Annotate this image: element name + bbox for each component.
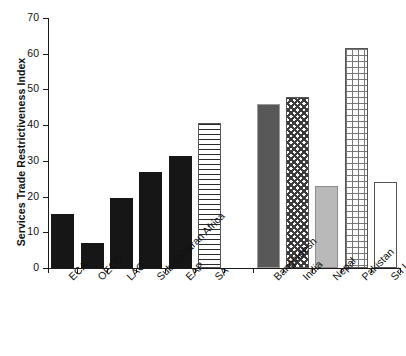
y-tick-label-0: 0	[13, 261, 39, 273]
x-tick-0	[48, 268, 49, 273]
y-tick-40: 40	[43, 125, 48, 126]
bar-nepal	[315, 186, 338, 268]
y-tick-label-10: 10	[13, 225, 39, 237]
y-tick-label-30: 30	[13, 154, 39, 166]
y-axis-title: Services Trade Restrictiveness Index	[15, 27, 27, 277]
y-tick-60: 60	[43, 54, 48, 55]
y-tick-30: 30	[43, 161, 48, 162]
y-tick-label-20: 20	[13, 190, 39, 202]
y-tick-label-60: 60	[13, 47, 39, 59]
y-tick-10: 10	[43, 232, 48, 233]
y-tick-20: 20	[43, 197, 48, 198]
y-tick-50: 50	[43, 89, 48, 90]
bar-sa	[198, 123, 221, 268]
bar-bangladesh	[257, 104, 280, 268]
y-tick-label-70: 70	[13, 11, 39, 23]
services-trade-restrictiveness-bar-chart: Services Trade Restrictiveness Index 010…	[0, 0, 406, 356]
y-tick-label-40: 40	[13, 118, 39, 130]
y-tick-70: 70	[43, 18, 48, 19]
bar-sub-saharan-africa	[139, 172, 162, 268]
bar-eca	[51, 214, 74, 268]
x-tick-7	[253, 268, 254, 273]
y-axis-line	[48, 18, 49, 269]
y-tick-label-50: 50	[13, 82, 39, 94]
plot-area: 010203040506070	[48, 18, 400, 268]
bar-pakistan	[345, 48, 368, 268]
